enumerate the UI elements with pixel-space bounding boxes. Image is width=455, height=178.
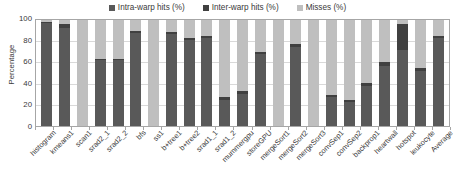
bar-slot (56, 20, 74, 126)
x-axis-labels: histogramkmeans1scan1srad2_1srad2_2bfsss… (35, 129, 450, 178)
bar-slot (38, 20, 56, 126)
stacked-bar[interactable] (77, 20, 88, 126)
stacked-bar[interactable] (201, 20, 212, 126)
bar-segment (415, 20, 426, 68)
bar-slot (109, 20, 127, 126)
bar-segment (273, 20, 284, 126)
bar-segment (433, 38, 444, 126)
bar-slot (234, 20, 252, 126)
bar-slot (376, 20, 394, 126)
bar-segment (290, 47, 301, 127)
stacked-bar[interactable] (397, 20, 408, 126)
stacked-bar[interactable] (184, 20, 195, 126)
legend-swatch-icon (203, 5, 209, 11)
y-tick-label: 80 (2, 37, 32, 45)
bar-slot (198, 20, 216, 126)
bar-slot (323, 20, 341, 126)
stacked-bar[interactable] (59, 20, 70, 126)
stacked-bar-chart: Intra-warp hits (%)Inter-warp hits (%)Mi… (0, 0, 455, 178)
bar-segment (361, 20, 372, 83)
bar-segment (219, 20, 230, 97)
stacked-bar[interactable] (255, 20, 266, 126)
bar-segment (41, 23, 52, 126)
bar-slot (394, 20, 412, 126)
bar-segment (397, 50, 408, 126)
y-tick-label: 0 (2, 123, 32, 131)
bar-segment (130, 33, 141, 126)
bar-segment (344, 102, 355, 126)
stacked-bar[interactable] (415, 20, 426, 126)
legend-item: Inter-warp hits (%) (203, 4, 279, 12)
bar-segment (219, 100, 230, 127)
legend-label: Inter-warp hits (%) (212, 4, 279, 12)
bar-slot (162, 20, 180, 126)
bar-slot (411, 20, 429, 126)
bar-segment (379, 66, 390, 126)
bar-slot (340, 20, 358, 126)
bar-segment (59, 28, 70, 126)
bar-segment (433, 20, 444, 36)
bar-slot (429, 20, 447, 126)
stacked-bar[interactable] (148, 20, 159, 126)
bar-segment (344, 20, 355, 100)
bar-segment (166, 34, 177, 126)
bar-segment (184, 20, 195, 38)
bar-segment (379, 20, 390, 62)
stacked-bar[interactable] (273, 20, 284, 126)
bar-segment (255, 54, 266, 126)
x-tick-label: ss1 (152, 129, 165, 142)
y-tick-label: 40 (2, 80, 32, 88)
bar-segment (415, 71, 426, 126)
legend-swatch-icon (297, 5, 303, 11)
stacked-bar[interactable] (219, 20, 230, 126)
bar-segment (201, 20, 212, 36)
stacked-bar[interactable] (433, 20, 444, 126)
bar-slot (287, 20, 305, 126)
bar-segment (361, 86, 372, 126)
bar-segment (201, 38, 212, 126)
bar-slot (74, 20, 92, 126)
bar-segment (397, 24, 408, 49)
bar-slot (127, 20, 145, 126)
bar-slot (251, 20, 269, 126)
bar-slot (305, 20, 323, 126)
bar-segment (326, 97, 337, 126)
stacked-bar[interactable] (308, 20, 319, 126)
stacked-bar[interactable] (95, 20, 106, 126)
plot-area (35, 19, 450, 127)
y-tick-label: 60 (2, 58, 32, 66)
stacked-bar[interactable] (41, 20, 52, 126)
legend-label: Intra-warp hits (%) (118, 4, 185, 12)
chart-legend: Intra-warp hits (%)Inter-warp hits (%)Mi… (0, 1, 455, 15)
bar-slot (91, 20, 109, 126)
stacked-bar[interactable] (290, 20, 301, 126)
bar-slot (180, 20, 198, 126)
stacked-bar[interactable] (344, 20, 355, 126)
bar-series-container (36, 20, 449, 126)
stacked-bar[interactable] (361, 20, 372, 126)
stacked-bar[interactable] (326, 20, 337, 126)
bar-slot (269, 20, 287, 126)
x-tick-label: bfs (135, 129, 147, 141)
stacked-bar[interactable] (379, 20, 390, 126)
stacked-bar[interactable] (130, 20, 141, 126)
bar-segment (237, 20, 248, 91)
bar-segment (326, 20, 337, 95)
stacked-bar[interactable] (113, 20, 124, 126)
legend-item: Misses (%) (297, 4, 346, 12)
bar-segment (95, 20, 106, 59)
legend-label: Misses (%) (306, 4, 346, 12)
bar-segment (184, 40, 195, 126)
stacked-bar[interactable] (237, 20, 248, 126)
stacked-bar[interactable] (166, 20, 177, 126)
bar-segment (255, 20, 266, 52)
bar-segment (290, 20, 301, 44)
bar-slot (216, 20, 234, 126)
bar-segment (166, 20, 177, 32)
legend-item: Intra-warp hits (%) (109, 4, 185, 12)
bar-slot (358, 20, 376, 126)
bar-segment (113, 20, 124, 59)
bar-slot (145, 20, 163, 126)
bar-segment (113, 60, 124, 126)
bar-segment (308, 20, 319, 126)
